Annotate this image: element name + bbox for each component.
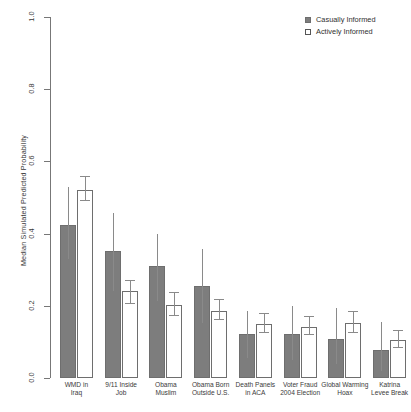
error-cap-active-1-low [125, 303, 135, 304]
y-axis-tick [44, 378, 50, 379]
error-bar-casual-4 [247, 311, 248, 358]
y-axis-tick [44, 306, 50, 307]
error-cap-active-3-high [214, 299, 224, 300]
legend-item-casually-informed[interactable]: Casually Informed [305, 14, 376, 25]
error-cap-active-0-high [80, 176, 90, 177]
error-cap-active-2-low [169, 315, 179, 316]
error-cap-active-5-low [304, 334, 314, 335]
error-bar-active-3 [219, 300, 220, 320]
error-bar-active-7 [398, 331, 399, 348]
legend-item-actively-informed[interactable]: Actively Informed [305, 26, 376, 37]
error-bar-active-4 [264, 314, 265, 333]
legend-item-label: Casually Informed [316, 15, 376, 24]
y-axis-tick [44, 161, 50, 162]
y-axis-tick-label: 0.8 [27, 78, 36, 100]
error-cap-active-7-low [393, 347, 403, 348]
error-bar-active-5 [309, 317, 310, 335]
bar-active-0 [77, 190, 93, 378]
y-axis-tick-label: 0.0 [27, 367, 36, 389]
error-bar-casual-6 [336, 308, 337, 365]
filled-square-icon [305, 17, 311, 23]
x-axis-label-line: Levee Break [350, 389, 411, 397]
error-bar-active-1 [130, 281, 131, 304]
error-bar-casual-5 [292, 306, 293, 360]
legend-item-label: Actively Informed [316, 27, 373, 36]
error-cap-active-5-high [304, 316, 314, 317]
error-cap-active-4-low [259, 332, 269, 333]
open-square-icon [305, 29, 311, 35]
error-cap-active-1-high [125, 280, 135, 281]
error-cap-active-7-high [393, 330, 403, 331]
error-bar-casual-2 [157, 234, 158, 301]
error-cap-active-3-low [214, 319, 224, 320]
error-bar-active-6 [353, 312, 354, 333]
y-axis-tick-label: 0.4 [27, 222, 36, 244]
y-axis-tick [44, 17, 50, 18]
bar-chart: Median Simulated Predicted Probability 0… [0, 0, 411, 412]
error-cap-active-6-low [348, 332, 358, 333]
error-bar-casual-1 [113, 213, 114, 292]
y-axis-tick [44, 89, 50, 90]
plot-area [51, 17, 409, 378]
x-axis-label-7: KatrinaLevee Break [350, 381, 411, 398]
error-bar-casual-3 [202, 249, 203, 323]
y-axis-tick-label: 0.6 [27, 150, 36, 172]
y-axis-tick-label: 1.0 [27, 6, 36, 28]
y-axis-tick [44, 234, 50, 235]
chart-legend: Casually Informed Actively Informed [305, 14, 376, 38]
error-bar-active-2 [174, 293, 175, 316]
error-cap-active-0-low [80, 200, 90, 201]
y-axis-title: Median Simulated Predicted Probability [19, 86, 28, 316]
bar-active-3 [211, 311, 227, 378]
error-cap-active-4-high [259, 313, 269, 314]
error-bar-casual-0 [68, 187, 69, 259]
error-cap-active-6-high [348, 311, 358, 312]
error-cap-active-2-high [169, 292, 179, 293]
error-bar-active-0 [85, 177, 86, 202]
y-axis-tick-label: 0.2 [27, 294, 36, 316]
x-axis-label-line: Katrina [350, 381, 411, 389]
error-bar-casual-7 [381, 322, 382, 371]
